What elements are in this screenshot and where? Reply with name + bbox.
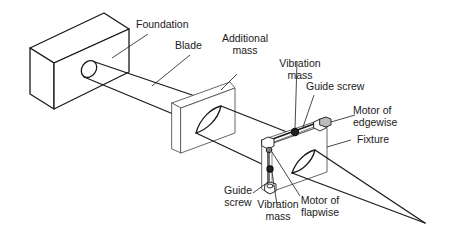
label-guide-screw-bottom-line1: Guide [215,184,261,196]
label-vibration-mass-top-line1: Vibration [270,57,330,69]
flapwise-vibration-mass [267,166,273,172]
label-vibration-mass-top: Vibration mass [270,57,330,81]
label-fixture: Fixture [357,133,389,145]
label-foundation: Foundation [136,18,189,30]
label-additional-mass: Additional mass [215,32,275,56]
foundation-block [30,13,129,109]
label-motor-flapwise-line2: flapwise [294,206,346,218]
label-guide-screw-top: Guide screw [306,80,364,92]
blade-test-diagram: Foundation Blade Additional mass Vibrati… [0,0,452,252]
edgewise-vibration-mass [292,129,299,136]
label-blade: Blade [175,39,202,51]
label-motor-edgewise-line1: Motor of [353,104,397,116]
label-additional-mass-line2: mass [215,44,275,56]
edgewise-motor [314,117,331,131]
label-motor-edgewise-line2: edgewise [353,116,397,128]
label-additional-mass-line1: Additional [215,32,275,44]
label-motor-flapwise-line1: Motor of [294,194,346,206]
label-motor-flapwise: Motor of flapwise [294,194,346,218]
label-motor-edgewise: Motor of edgewise [353,104,397,128]
